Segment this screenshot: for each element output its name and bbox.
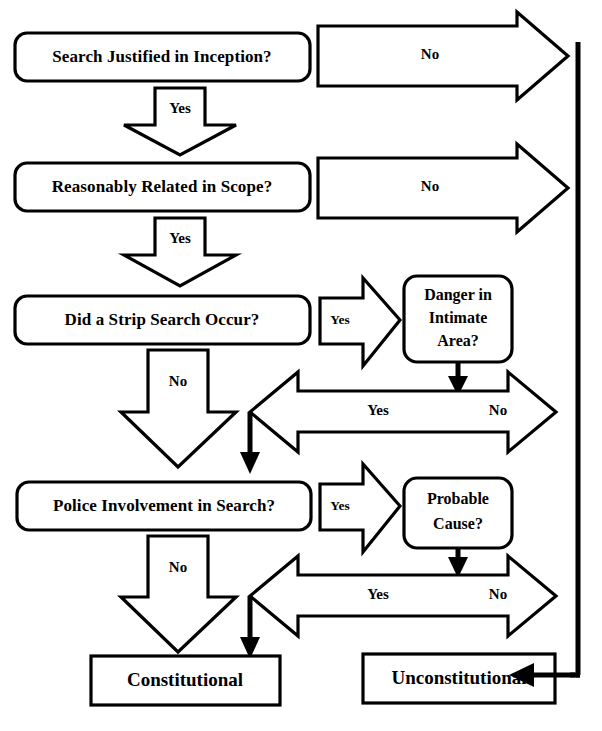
edge-q1-yes-down-arrow[interactable]: Yes xyxy=(124,88,236,155)
edge-q1-no-right-arrow[interactable]: No xyxy=(318,12,568,100)
node-probable-cause[interactable]: Probable Cause? xyxy=(404,478,512,548)
edge-label: Yes xyxy=(330,312,350,327)
node-label-line2: Intimate xyxy=(429,309,488,326)
node-danger-in-intimate-area[interactable]: Danger in Intimate Area? xyxy=(404,276,512,362)
block-arrow-down xyxy=(124,218,236,286)
edge-label-no: No xyxy=(489,586,507,602)
connector-q4-yes-to-police-involvement xyxy=(240,412,260,474)
node-constitutional[interactable]: Constitutional xyxy=(91,656,280,705)
edge-label: No xyxy=(421,178,439,194)
edge-label: Yes xyxy=(330,498,350,513)
block-arrow-down xyxy=(124,88,236,155)
edge-label-yes: Yes xyxy=(367,586,389,602)
connector-q6-yes-to-constitutional xyxy=(240,596,260,659)
edge-q5-no-down-arrow[interactable]: No xyxy=(121,536,236,652)
node-label: Search Justified in Inception? xyxy=(52,47,271,66)
node-label: Police Involvement in Search? xyxy=(53,496,275,515)
node-reasonably-related-in-scope[interactable]: Reasonably Related in Scope? xyxy=(15,163,310,211)
edge-label-yes: Yes xyxy=(367,402,389,418)
block-arrow-down xyxy=(121,536,236,652)
arrowhead-down-icon xyxy=(240,452,260,474)
node-search-justified-in-inception[interactable]: Search Justified in Inception? xyxy=(15,33,310,81)
edge-label: Yes xyxy=(169,230,191,246)
block-arrow-down xyxy=(121,350,236,467)
block-arrow-right xyxy=(318,12,568,100)
edge-label-no: No xyxy=(489,402,507,418)
block-arrow-bidirectional xyxy=(250,556,556,636)
node-label-line1: Probable xyxy=(427,490,489,507)
node-did-a-strip-search-occur[interactable]: Did a Strip Search Occur? xyxy=(15,296,310,344)
node-label: Did a Strip Search Occur? xyxy=(65,310,260,329)
node-label: Unconstitutional xyxy=(391,667,526,688)
edge-label: Yes xyxy=(169,100,191,116)
block-arrow-bidirectional xyxy=(250,372,556,452)
node-label: Constitutional xyxy=(127,669,243,690)
connector-line-vertical xyxy=(578,42,580,675)
edge-q2-yes-down-arrow[interactable]: Yes xyxy=(124,218,236,286)
node-label-line3: Area? xyxy=(437,332,478,349)
flowchart-canvas: Search Justified in Inception? No Yes Re… xyxy=(0,0,602,731)
edge-q6-yes-no-bidirectional-arrow[interactable]: Yes No xyxy=(250,556,556,636)
edge-label: No xyxy=(421,46,439,62)
node-label-line2: Cause? xyxy=(433,515,483,532)
edge-q4-yes-no-bidirectional-arrow[interactable]: Yes No xyxy=(250,372,556,452)
block-arrow-right xyxy=(318,144,568,232)
edge-label: No xyxy=(169,373,187,389)
edge-q5-yes-right-arrow[interactable]: Yes xyxy=(320,464,400,552)
node-label-line1: Danger in xyxy=(424,286,492,304)
edge-label: No xyxy=(169,559,187,575)
edge-q3-no-down-arrow[interactable]: No xyxy=(121,350,236,467)
node-label: Reasonably Related in Scope? xyxy=(52,177,273,196)
node-shape-rounded-rect xyxy=(404,478,512,548)
edge-q3-yes-right-arrow[interactable]: Yes xyxy=(320,278,400,366)
node-police-involvement-in-search[interactable]: Police Involvement in Search? xyxy=(17,482,311,530)
edge-q2-no-right-arrow[interactable]: No xyxy=(318,144,568,232)
